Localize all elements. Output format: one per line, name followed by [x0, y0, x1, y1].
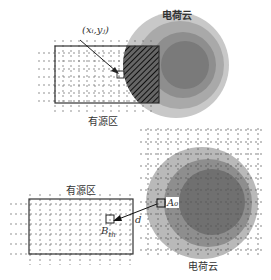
bottom-cloud-label: 电荷云 [188, 258, 218, 273]
point-coordinate-label: (xᵢ,yⱼ) [82, 24, 109, 35]
cell-b-label: Bth [101, 225, 116, 239]
bottom-source-region-box [29, 199, 133, 254]
cell-a-label: A₀ [166, 197, 179, 208]
top-cloud-label: 电荷云 [162, 7, 192, 22]
charge-cloud-diagram [0, 0, 271, 280]
cell-b-sub: th [108, 231, 115, 239]
overlap-region [55, 46, 159, 103]
bottom-source-label: 有源区 [66, 182, 96, 197]
top-source-label: 有源区 [88, 113, 118, 128]
bottom-charge-cloud [146, 147, 258, 259]
distance-label: d [135, 214, 141, 225]
